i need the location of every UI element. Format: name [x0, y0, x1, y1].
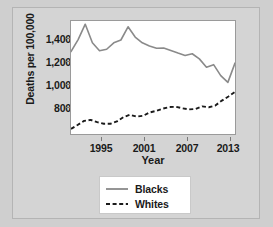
figure-panel: Deaths per 100,000 1,400 1,200 1,000 800…	[12, 7, 260, 219]
legend-item-whites: Whites	[105, 196, 185, 211]
x-tick-label: 2001	[133, 142, 156, 154]
x-tick-label: 2007	[176, 142, 199, 154]
x-tick-label: 2013	[217, 142, 240, 154]
series-line-whites	[71, 92, 235, 129]
legend-label-blacks: Blacks	[135, 183, 168, 195]
legend-item-blacks: Blacks	[105, 181, 185, 196]
series-lines	[71, 21, 235, 134]
y-tick-label: 1,400	[25, 33, 71, 45]
x-tick-mark	[230, 137, 231, 141]
x-tick-mark	[101, 137, 102, 141]
legend-line-dashed-icon	[105, 199, 129, 209]
legend-line-solid-icon	[105, 184, 129, 194]
chart-legend: Blacks Whites	[99, 176, 191, 214]
x-axis-label: Year	[70, 154, 236, 166]
x-tick-mark	[187, 137, 188, 141]
series-line-blacks	[71, 24, 235, 82]
x-tick-label: 1995	[90, 142, 113, 154]
legend-label-whites: Whites	[135, 198, 169, 210]
y-axis-tick-labels: 1,400 1,200 1,000 800	[23, 8, 71, 220]
x-axis-ticks: 1995 2001 2007 2013	[70, 137, 236, 153]
y-tick-label: 1,200	[25, 56, 71, 68]
plot-area	[70, 20, 236, 135]
y-tick-label: 800	[25, 102, 71, 114]
y-tick-label: 1,000	[25, 79, 71, 91]
x-tick-mark	[144, 137, 145, 141]
line-chart: Deaths per 100,000 1,400 1,200 1,000 800…	[13, 8, 261, 220]
